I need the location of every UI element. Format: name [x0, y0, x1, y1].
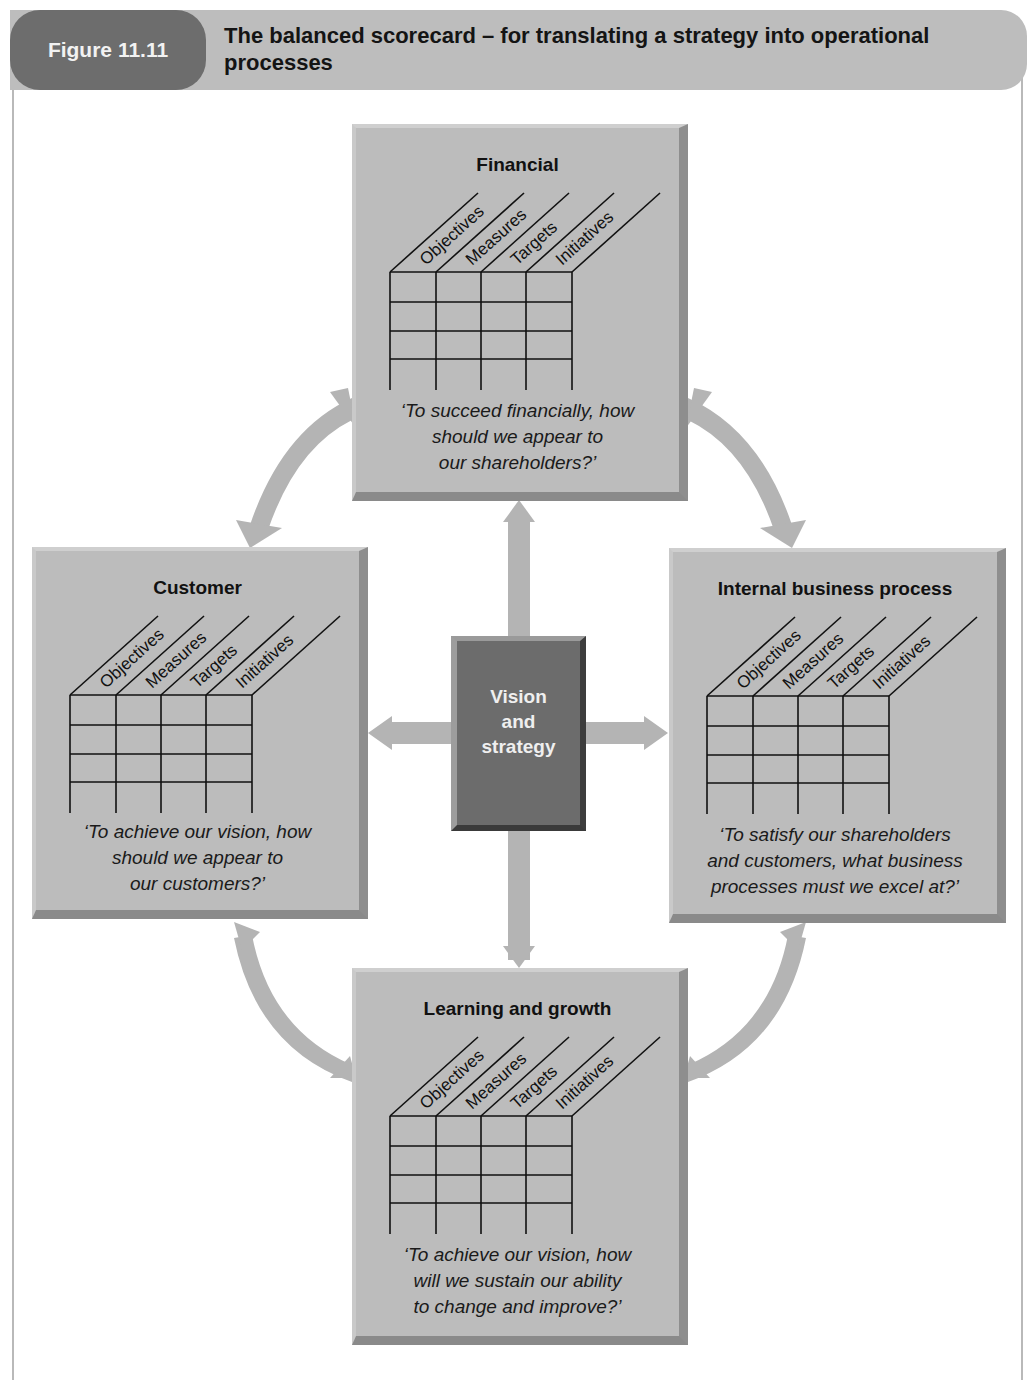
card-learning-and-growth: Learning and growth Objectives Measures … [352, 968, 688, 1345]
curved-arrow-financial-customer-icon [236, 388, 356, 548]
vision-label: Vision and strategy [482, 684, 556, 759]
curved-arrow-customer-learning-icon [234, 922, 356, 1082]
curved-arrow-internal-learning-icon [684, 922, 806, 1082]
card-financial: Financial Objectives Measures Targets In… [352, 124, 688, 501]
card-internal-business-process: Internal business process Objectives Mea… [669, 548, 1006, 923]
card-question: ‘To achieve our vision, how will we sust… [356, 1242, 679, 1320]
card-question: ‘To achieve our vision, how should we ap… [36, 819, 359, 897]
vision-and-strategy-box: Vision and strategy [451, 636, 586, 831]
curved-arrow-financial-internal-icon [686, 388, 806, 548]
card-customer: Customer Objectives Measures Targets Ini… [32, 547, 368, 919]
card-question: ‘To satisfy our shareholders and custome… [673, 822, 997, 900]
card-question: ‘To succeed financially, how should we a… [356, 398, 679, 476]
